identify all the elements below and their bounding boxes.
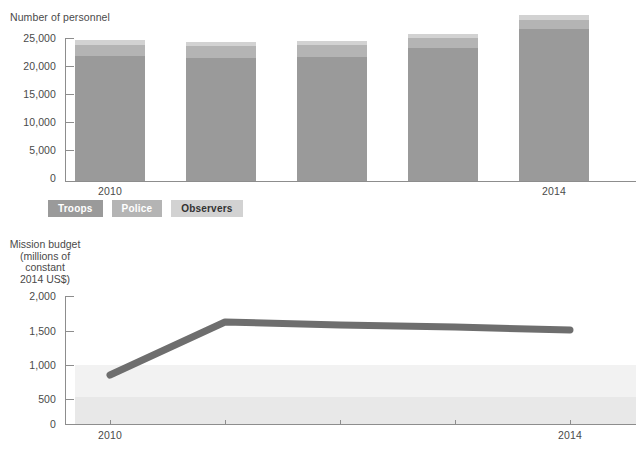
budget-xtick-mark-2012 [340,420,341,425]
bar-2014[interactable] [519,15,589,181]
budget-xtick-mark-2013 [455,420,456,425]
budget-xtick-2010: 2010 [80,429,140,441]
legend-item-troops[interactable]: Troops [48,200,103,217]
budget-xtick-mark-2010 [110,420,111,425]
bar-2012[interactable] [297,41,367,181]
legend-item-observers[interactable]: Observers [171,200,242,217]
bar-2011[interactable] [186,42,256,181]
personnel-x-axis-line [65,181,636,182]
budget-chart: Mission budget (millions of constant 201… [0,232,636,464]
personnel-legend: Troops Police Observers [48,200,243,217]
legend-label-observers: Observers [181,203,232,214]
bar-2011-seg-troops [186,58,256,181]
legend-label-police: Police [122,203,153,214]
legend-item-police[interactable]: Police [112,200,163,217]
personnel-plot-area [0,0,636,181]
budget-x-axis-line [65,424,636,425]
bar-2013[interactable] [408,34,478,181]
bar-2014-seg-police [519,20,589,29]
bar-2013-seg-troops [408,48,478,181]
bar-2010-seg-police [75,45,145,56]
bar-2011-seg-police [186,46,256,58]
budget-xtick-mark-2011 [225,420,226,425]
personnel-xtick-2014: 2014 [524,185,584,197]
budget-xtick-2014: 2014 [540,429,600,441]
bar-2010[interactable] [75,40,145,181]
personnel-chart: Number of personnel 25,000 20,000 15,000… [0,0,636,232]
bar-2013-seg-police [408,38,478,48]
bar-2012-seg-troops [297,57,367,181]
bar-2014-seg-troops [519,29,589,181]
bar-2012-seg-police [297,45,367,57]
personnel-xtick-2010: 2010 [80,185,140,197]
budget-line-path [110,322,570,375]
legend-label-troops: Troops [58,203,93,214]
budget-xtick-mark-2014 [570,420,571,425]
bar-2010-seg-troops [75,56,145,181]
